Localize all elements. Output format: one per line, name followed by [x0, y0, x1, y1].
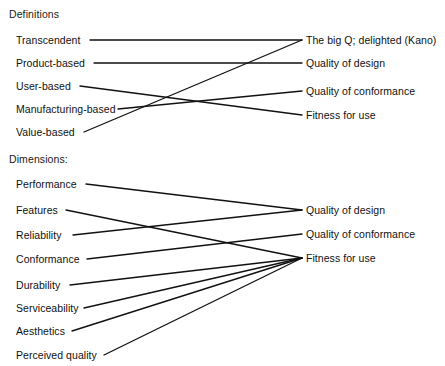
- node-label-quality-of-design: Quality of design: [306, 58, 385, 69]
- node-label-user-based: User-based: [16, 81, 71, 92]
- node-label-serviceability: Serviceability: [16, 303, 79, 314]
- node-label-aesthetics: Aesthetics: [16, 326, 65, 337]
- edge-aesthetics-to-fitness-for-use-2: [72, 258, 302, 331]
- edge-manufacturing-based-to-quality-of-conformance: [118, 91, 302, 109]
- node-label-durability: Durability: [16, 280, 60, 291]
- edge-conformance-to-quality-of-conformance-2: [87, 234, 302, 259]
- edge-serviceability-to-fitness-for-use-2: [84, 258, 302, 308]
- node-label-reliability: Reliability: [16, 230, 61, 241]
- node-label-conformance: Conformance: [16, 254, 80, 265]
- node-label-quality-of-conformance-2: Quality of conformance: [306, 229, 415, 240]
- node-label-manufacturing-based: Manufacturing-based: [16, 104, 116, 115]
- node-label-quality-of-conformance: Quality of conformance: [306, 86, 415, 97]
- edge-perceived-quality-to-fitness-for-use-2: [104, 258, 302, 355]
- section-heading-dimensions: Dimensions:: [9, 153, 68, 165]
- edge-reliability-to-quality-of-design-2: [73, 210, 302, 235]
- node-label-value-based: Value-based: [16, 127, 75, 138]
- node-label-fitness-for-use: Fitness for use: [306, 110, 376, 121]
- edge-performance-to-quality-of-design-2: [86, 184, 302, 210]
- section-heading-definitions: Definitions: [9, 8, 59, 20]
- node-label-perceived-quality: Perceived quality: [16, 350, 97, 361]
- node-label-fitness-for-use-2: Fitness for use: [306, 253, 376, 264]
- node-label-performance: Performance: [16, 179, 77, 190]
- node-label-transcendent: Transcendent: [16, 35, 80, 46]
- edge-durability-to-fitness-for-use-2: [70, 258, 302, 285]
- node-label-product-based: Product-based: [16, 58, 85, 69]
- node-label-features: Features: [16, 205, 58, 216]
- edge-value-based-to-big-q: [84, 40, 302, 132]
- edges-group: [66, 40, 302, 355]
- diagram-canvas: DefinitionsDimensions:TranscendentProduc…: [0, 0, 445, 366]
- node-label-big-q: The big Q; delighted (Kano): [306, 35, 436, 46]
- edge-features-to-fitness-for-use-2: [66, 210, 302, 258]
- node-label-quality-of-design-2: Quality of design: [306, 205, 385, 216]
